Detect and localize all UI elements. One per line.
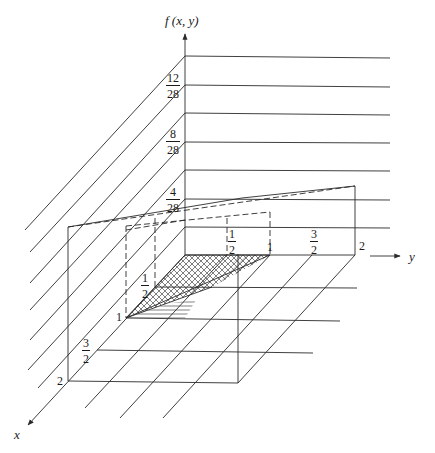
z-tick-4-28: 428	[166, 186, 180, 214]
y-axis-label: y	[409, 250, 415, 263]
y-tick-1: 1	[267, 241, 273, 253]
axes	[28, 34, 400, 425]
z-axis-label: f (x, y)	[165, 14, 199, 27]
diagram-canvas	[0, 0, 435, 453]
x-tick-3-2: 32	[82, 337, 90, 365]
figure: f (x, y) y x 1228 828 428 12 1 32 2 12 1…	[0, 0, 435, 453]
y-tick-2: 2	[359, 240, 365, 252]
x-tick-1: 1	[116, 311, 122, 323]
x-axis-label: x	[14, 428, 20, 441]
x-tick-2: 2	[57, 375, 63, 387]
z-tick-12-28: 1228	[166, 72, 180, 100]
z-tick-8-28: 828	[166, 128, 180, 156]
y-tick-3-2: 32	[310, 228, 318, 256]
x-tick-1-2: 12	[141, 272, 149, 300]
x-axis	[28, 255, 185, 425]
y-tick-1-2: 12	[228, 228, 236, 256]
